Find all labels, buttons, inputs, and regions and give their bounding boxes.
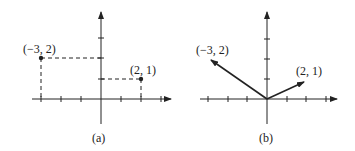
dashed-projections	[41, 58, 141, 99]
label-vector-2-1: (2, 1)	[296, 64, 322, 78]
point-2-1	[139, 77, 143, 81]
label-point-neg3-2: (−3, 2)	[23, 42, 56, 56]
caption-a: (a)	[92, 131, 105, 145]
figure-b: (−3, 2) (2, 1) (b)	[196, 12, 337, 145]
caption-b: (b)	[259, 131, 273, 145]
vector-2-1	[267, 82, 304, 99]
point-neg3-2	[39, 56, 43, 60]
diagram-canvas: (−3, 2) (2, 1) (a) (−3, 2) (2, 1) (b)	[0, 0, 355, 151]
label-vector-neg3-2: (−3, 2)	[196, 43, 229, 57]
vector-neg3-2	[211, 60, 267, 99]
label-point-2-1: (2, 1)	[130, 63, 156, 77]
figure-a: (−3, 2) (2, 1) (a)	[23, 12, 171, 145]
